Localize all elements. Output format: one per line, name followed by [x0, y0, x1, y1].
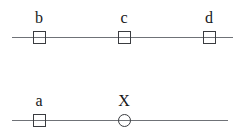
line-diagram: b c d a X	[0, 0, 243, 133]
marker-label-a: a	[19, 93, 59, 109]
marker-label-x: X	[104, 93, 144, 109]
marker-square-a[interactable]	[33, 114, 46, 127]
marker-circle-x[interactable]	[118, 114, 131, 127]
bottom-row-group: a X	[0, 0, 243, 133]
